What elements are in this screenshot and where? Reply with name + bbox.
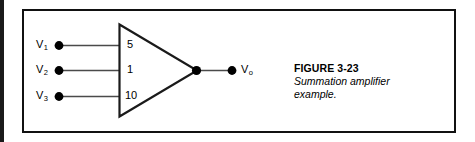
gain-label-v3: 10 bbox=[125, 90, 137, 101]
input-label-v2-subscript: 2 bbox=[43, 68, 48, 77]
node-vo bbox=[228, 66, 237, 75]
gain-label-v1: 5 bbox=[127, 39, 133, 50]
figure-caption-line1: Summation amplifier bbox=[294, 75, 444, 88]
node-v1 bbox=[55, 41, 64, 50]
figure-caption-line2: example. bbox=[294, 88, 444, 101]
figure-caption: FIGURE 3-23 Summation amplifier example. bbox=[294, 62, 444, 101]
input-label-v2: V2 bbox=[36, 64, 48, 75]
node-v3 bbox=[55, 92, 64, 101]
input-label-v3: V3 bbox=[36, 90, 48, 101]
input-label-v1-subscript: 1 bbox=[43, 43, 48, 52]
output-label-vo-subscript: o bbox=[248, 68, 253, 77]
figure-caption-title: FIGURE 3-23 bbox=[294, 62, 444, 75]
output-label-vo: Vo bbox=[241, 64, 253, 75]
input-label-v3-subscript: 3 bbox=[43, 94, 48, 103]
input-label-v1: V1 bbox=[36, 39, 48, 50]
node-amplifier-output bbox=[192, 66, 201, 75]
gain-label-v2: 1 bbox=[127, 64, 133, 75]
node-v2 bbox=[55, 66, 64, 75]
